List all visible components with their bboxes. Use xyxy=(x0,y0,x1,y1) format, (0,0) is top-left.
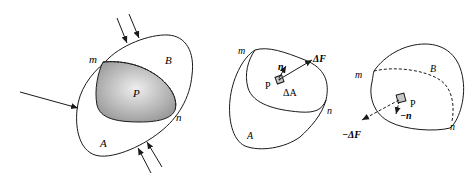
part-B-outline xyxy=(371,44,464,130)
force-arrow-icon xyxy=(138,148,151,173)
label-normal-n: n xyxy=(278,61,284,72)
label-m: m xyxy=(238,45,245,56)
panel-whole-body: m B P n A xyxy=(20,14,193,173)
label-n: n xyxy=(176,111,182,123)
free-body-diagram: m B P n A m n ΔF P ΔA n A m B P −n n −ΔF xyxy=(0,0,476,180)
label-A: A xyxy=(99,137,107,149)
label-A: A xyxy=(246,130,254,141)
label-n: n xyxy=(450,121,455,132)
label-m: m xyxy=(355,69,362,80)
label-neg-normal: −n xyxy=(400,110,412,121)
force-arrow-icon xyxy=(117,18,127,43)
label-B: B xyxy=(430,63,436,74)
label-P: P xyxy=(410,98,416,109)
figure-canvas: m B P n A m n ΔF P ΔA n A m B P −n n −ΔF xyxy=(0,0,476,180)
section-dashed-edge xyxy=(374,69,453,121)
label-m: m xyxy=(89,53,97,65)
neg-force-dF-arrow-icon xyxy=(362,100,399,120)
label-P: P xyxy=(132,87,140,99)
force-dF-arrow-icon xyxy=(280,60,312,79)
force-arrow-icon xyxy=(147,142,162,167)
panel-part-A: m n ΔF P ΔA n A xyxy=(230,45,332,149)
label-neg-dF: −ΔF xyxy=(342,129,361,140)
force-arrow-icon xyxy=(129,14,139,38)
label-B: B xyxy=(165,54,172,66)
label-P: P xyxy=(265,80,271,91)
force-arrow-icon xyxy=(20,92,78,108)
label-n: n xyxy=(327,105,332,116)
panel-part-B: m B P −n n −ΔF xyxy=(342,44,464,140)
neg-normal-arrow-icon xyxy=(396,102,399,114)
label-dA: ΔA xyxy=(283,87,297,98)
label-dF: ΔF xyxy=(312,53,326,64)
area-element-icon xyxy=(396,93,406,103)
